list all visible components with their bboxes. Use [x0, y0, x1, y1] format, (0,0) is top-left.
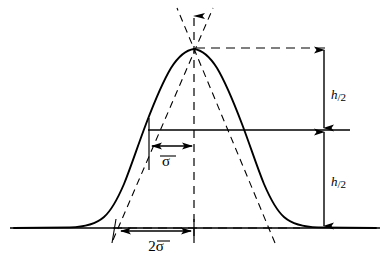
two-sigma-left-tick: [112, 219, 116, 243]
sigma-label: σ: [162, 153, 170, 169]
left-tangent-line: [113, 8, 213, 240]
diagram-canvas: σ 2σ h/2 h/2: [0, 0, 386, 261]
lower-half-height-label: h/2: [331, 174, 346, 190]
lower-half-height-label-group: h/2: [331, 174, 346, 190]
upper-half-height-label: h/2: [331, 87, 346, 103]
two-sigma-label: 2σ: [148, 238, 164, 254]
upper-half-height-label-group: h/2: [331, 87, 346, 103]
gaussian-curve: [14, 49, 376, 228]
gaussian-curve-figure: σ 2σ h/2 h/2: [0, 0, 386, 261]
right-tangent-line: [177, 8, 275, 243]
